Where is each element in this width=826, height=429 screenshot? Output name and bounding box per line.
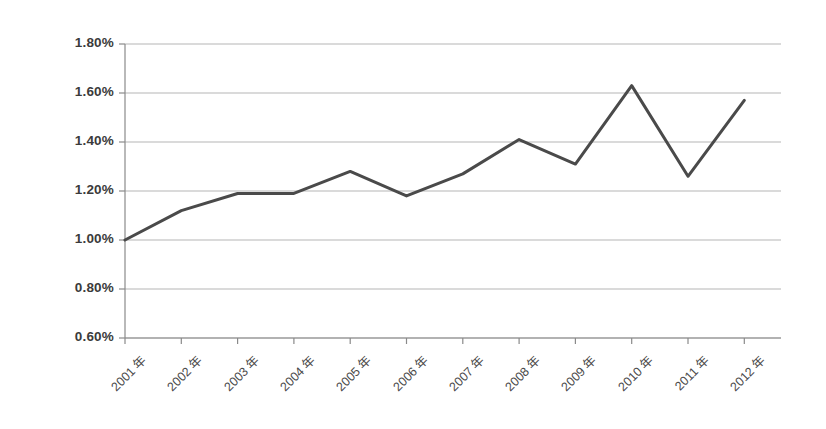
x-tick-marks-group <box>125 338 744 344</box>
y-tick-marks-group <box>119 44 125 338</box>
y-axis-tick-label: 0.80% <box>75 280 114 295</box>
data-line-series-0 <box>125 86 744 240</box>
gridlines-group <box>125 44 781 338</box>
y-axis-tick-label: 1.80% <box>75 35 114 50</box>
y-axis-tick-label: 1.00% <box>75 231 114 246</box>
y-axis-tick-label: 0.60% <box>75 329 114 344</box>
y-axis-tick-label: 1.40% <box>75 133 114 148</box>
y-axis-tick-label: 1.60% <box>75 84 114 99</box>
data-series-group <box>125 86 744 240</box>
y-axis-tick-label: 1.20% <box>75 182 114 197</box>
line-chart: 1.80%1.60%1.40%1.20%1.00%0.80%0.60% 2001… <box>0 0 826 429</box>
